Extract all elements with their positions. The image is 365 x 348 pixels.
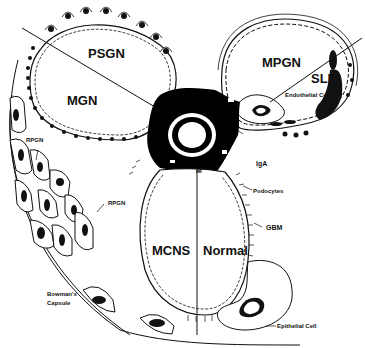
label-bowmans-capsule-line1: Bowman's [47,291,77,297]
label-mgn: MGN [67,94,97,107]
label-endothelial-cell: Endothelial Cell [285,92,330,98]
label-sle: SLE [311,72,336,85]
label-mpgn: MPGN [262,56,301,69]
label-rpgn-lower: RPGN [108,200,125,206]
label-rpgn-upper: RPGN [26,137,43,143]
label-psgn: PSGN [88,47,125,60]
label-bowmans-capsule-line2: Capsule [47,300,70,306]
label-mesangium: M [196,167,202,174]
label-epithelial-cell: Epithelial Cell [277,323,316,329]
label-normal: Normal [203,244,248,257]
label-iga: IgA [256,160,267,167]
label-podocytes: Podocytes [253,188,283,194]
capillary-loop-mcns-normal [129,160,254,322]
label-mcns: MCNS [152,244,190,257]
mesangium [147,88,240,171]
label-gbm: GBM [266,224,282,231]
